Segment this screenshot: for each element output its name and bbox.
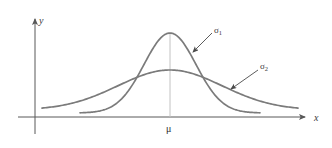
sigma1-label: σ1 (214, 26, 222, 35)
normal-distribution-figure: y x μ σ1 σ2 (0, 0, 332, 148)
y-axis-label: y (39, 16, 43, 26)
mean-label: μ (166, 124, 171, 134)
sigma1-pointer-arrow (193, 33, 212, 52)
sigma2-label: σ2 (260, 62, 268, 71)
x-axis-label: x (314, 113, 318, 123)
sigma2-pointer-arrow (231, 70, 258, 89)
sigma1-subscript: 1 (219, 29, 222, 36)
sigma2-subscript: 2 (265, 65, 268, 72)
